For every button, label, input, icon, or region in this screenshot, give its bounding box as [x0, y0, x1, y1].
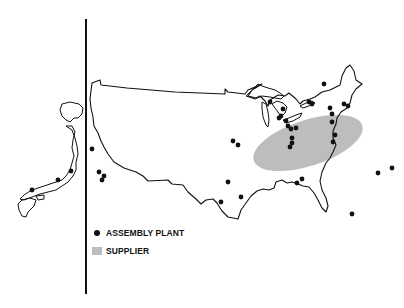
assembly-plant-marker [100, 178, 105, 183]
japan-outline [18, 102, 83, 217]
assembly-plant-marker [30, 188, 35, 193]
plant-dot-icon [94, 230, 100, 236]
assembly-plant-marker [281, 107, 286, 112]
map-canvas [0, 0, 404, 308]
assembly-plant-marker [289, 127, 294, 132]
assembly-plant-marker [268, 100, 273, 105]
assembly-plant-marker [294, 126, 299, 131]
assembly-plant-marker [69, 169, 74, 174]
assembly-plant-marker [290, 136, 295, 141]
assembly-plant-marker [330, 120, 335, 125]
assembly-plant-marker [346, 104, 351, 109]
assembly-plant-marker [322, 82, 327, 87]
supplier-zone [247, 104, 370, 183]
assembly-plant-marker [284, 119, 289, 124]
legend-label: ASSEMBLY PLANT [106, 228, 184, 238]
supplier-swatch-icon [92, 247, 102, 255]
legend-item-assembly-plant: ASSEMBLY PLANT [92, 224, 184, 242]
assembly-plant-marker [333, 133, 338, 138]
legend-label: SUPPLIER [106, 246, 149, 256]
assembly-plant-marker [277, 116, 282, 121]
assembly-plant-marker [56, 178, 61, 183]
legend-item-supplier: SUPPLIER [92, 242, 184, 260]
assembly-plant-marker [231, 139, 236, 144]
assembly-plant-marker [226, 180, 231, 185]
assembly-plant-marker [310, 102, 315, 107]
assembly-plant-marker [390, 166, 395, 171]
legend: ASSEMBLY PLANT SUPPLIER [92, 224, 184, 260]
assembly-plant-marker [331, 140, 336, 145]
assembly-plant-marker [288, 145, 293, 150]
assembly-plant-marker [90, 147, 95, 152]
assembly-plant-marker [330, 112, 335, 117]
assembly-plant-marker [97, 170, 102, 175]
assembly-plant-marker [350, 212, 355, 217]
assembly-plant-marker [376, 171, 381, 176]
assembly-plant-marker [300, 177, 305, 182]
assembly-plants-us [90, 82, 395, 217]
assembly-plant-marker [328, 106, 333, 111]
assembly-plant-marker [295, 181, 300, 186]
assembly-plant-marker [219, 200, 224, 205]
assembly-plant-marker [239, 195, 244, 200]
assembly-plant-marker [236, 143, 241, 148]
